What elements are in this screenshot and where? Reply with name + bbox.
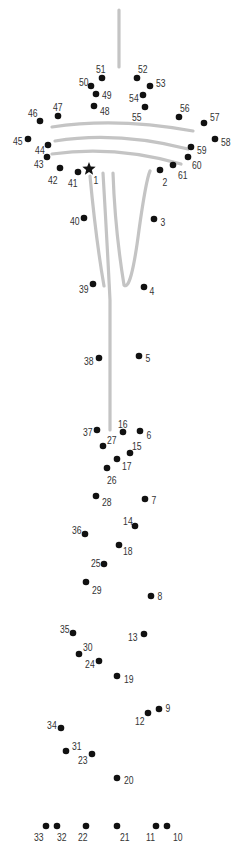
dot-30: 30 bbox=[76, 642, 93, 658]
dot-34: 34 bbox=[47, 720, 64, 732]
dot-marker bbox=[134, 75, 141, 82]
dot-marker bbox=[142, 104, 149, 111]
dot-marker bbox=[94, 427, 101, 434]
dot-51: 51 bbox=[96, 64, 106, 82]
dot-24: 24 bbox=[85, 658, 102, 671]
dot-marker bbox=[157, 167, 164, 174]
dot-number-label: 27 bbox=[107, 435, 117, 447]
dot-11: 11 bbox=[146, 823, 159, 844]
dot-25: 25 bbox=[91, 558, 107, 570]
guide-line bbox=[90, 176, 104, 286]
dot-41: 41 bbox=[68, 169, 81, 190]
dot-number-label: 44 bbox=[35, 145, 45, 157]
dot-marker bbox=[156, 706, 163, 713]
dot-marker bbox=[114, 456, 121, 463]
dot-55: 55 bbox=[132, 104, 148, 124]
dot-number-label: 11 bbox=[146, 832, 155, 844]
dot-35: 35 bbox=[60, 624, 76, 637]
dot-number-label: 22 bbox=[78, 832, 88, 844]
dot-marker bbox=[76, 651, 83, 658]
dot-marker bbox=[90, 281, 97, 288]
dot-number-label: 41 bbox=[68, 178, 78, 190]
dot-marker bbox=[100, 443, 107, 450]
dot-32: 32 bbox=[54, 823, 67, 844]
dot-21: 21 bbox=[114, 823, 130, 844]
dot-2: 2 bbox=[157, 167, 168, 189]
dot-number-label: 9 bbox=[166, 703, 171, 715]
guide-line bbox=[113, 171, 150, 286]
dot-33: 33 bbox=[34, 823, 49, 844]
dot-marker bbox=[57, 165, 64, 172]
dot-number-label: 47 bbox=[53, 102, 63, 114]
dot-number-label: 48 bbox=[100, 106, 110, 118]
dot-marker bbox=[136, 353, 143, 360]
guide-line bbox=[52, 123, 193, 131]
dot-marker bbox=[70, 630, 77, 637]
dot-number-label: 29 bbox=[92, 585, 102, 597]
dot-6: 6 bbox=[137, 428, 152, 442]
dot-number-label: 53 bbox=[156, 78, 166, 90]
dot-marker bbox=[142, 496, 149, 503]
dot-marker bbox=[140, 92, 147, 99]
dot-marker bbox=[170, 162, 177, 169]
dot-number-label: 6 bbox=[147, 430, 152, 442]
dot-23: 23 bbox=[78, 751, 95, 767]
dot-17: 17 bbox=[114, 456, 132, 473]
dot-number-label: 18 bbox=[123, 546, 133, 558]
dot-47: 47 bbox=[53, 102, 63, 120]
dot-36: 36 bbox=[72, 525, 88, 538]
dot-marker bbox=[44, 154, 51, 161]
guide-line bbox=[103, 173, 110, 430]
dot-number-label: 57 bbox=[210, 112, 220, 124]
dot-57: 57 bbox=[201, 112, 220, 127]
dot-number-label: 52 bbox=[138, 64, 148, 76]
dot-12: 12 bbox=[135, 710, 151, 728]
dot-31: 31 bbox=[63, 741, 82, 755]
dot-26: 26 bbox=[104, 465, 117, 487]
dot-50: 50 bbox=[79, 77, 94, 90]
dot-marker bbox=[137, 428, 144, 435]
dot-number-label: 13 bbox=[128, 632, 138, 644]
star-icon bbox=[82, 162, 95, 175]
dot-number-label: 60 bbox=[192, 160, 202, 172]
dot-number-label: 21 bbox=[120, 832, 130, 844]
dot-46: 46 bbox=[28, 108, 43, 125]
dot-marker bbox=[188, 144, 195, 151]
dot-marker bbox=[176, 114, 183, 121]
dot-number-label: 61 bbox=[178, 170, 188, 182]
dot-number-label: 55 bbox=[132, 112, 142, 124]
dot-marker bbox=[148, 593, 155, 600]
dot-19: 19 bbox=[114, 673, 134, 686]
dot-marker bbox=[93, 493, 100, 500]
dot-number-label: 17 bbox=[122, 461, 132, 473]
dot-marker bbox=[43, 823, 50, 830]
dot-22: 22 bbox=[78, 823, 89, 844]
dot-number-label: 10 bbox=[173, 832, 183, 844]
dot-number-label: 8 bbox=[158, 591, 163, 603]
dot-marker bbox=[91, 103, 98, 110]
dot-54: 54 bbox=[129, 92, 146, 105]
dot-marker bbox=[132, 523, 139, 530]
dot-marker bbox=[83, 823, 90, 830]
dot-marker bbox=[88, 83, 95, 90]
dot-number-label: 45 bbox=[13, 136, 23, 148]
dot-marker bbox=[164, 823, 171, 830]
dot-number-label: 54 bbox=[129, 93, 139, 105]
dot-number-label: 40 bbox=[70, 216, 80, 228]
dot-marker bbox=[37, 118, 44, 125]
dot-marker bbox=[141, 631, 148, 638]
dot-number-label: 24 bbox=[85, 659, 95, 671]
dot-number-label: 35 bbox=[60, 624, 70, 636]
dot-marker bbox=[83, 579, 90, 586]
dot-number-label: 7 bbox=[152, 495, 157, 507]
dot-marker bbox=[185, 154, 192, 161]
dot-number-label: 39 bbox=[79, 284, 89, 296]
dot-marker bbox=[25, 136, 32, 143]
dot-marker bbox=[141, 284, 148, 291]
dot-39: 39 bbox=[79, 281, 96, 296]
dot-37: 37 bbox=[83, 427, 100, 439]
dot-number-label: 2 bbox=[163, 177, 168, 189]
dot-13: 13 bbox=[128, 631, 147, 644]
dot-40: 40 bbox=[70, 215, 87, 228]
dot-7: 7 bbox=[142, 495, 157, 507]
